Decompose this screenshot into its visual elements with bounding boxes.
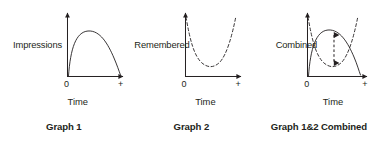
graph-3-xtick-plus: + — [362, 79, 367, 89]
graph-3-ylabel: Combined — [255, 39, 317, 50]
graph-1-xtick-zero: 0 — [64, 79, 69, 89]
chart-panel-graph-1: Impressions 0 + Time Graph 1 — [0, 0, 128, 145]
graph-2-caption: Graph 2 — [128, 121, 256, 133]
graph-3-xlabel: Time — [255, 96, 383, 107]
graph-2-xtick-plus: + — [236, 79, 241, 89]
graph-1-axes — [67, 13, 123, 76]
graph-2-axes — [185, 13, 241, 76]
graph-1-curve-impressions — [68, 31, 120, 76]
graph-2-xtick-zero: 0 — [182, 79, 187, 89]
graph-1-caption: Graph 1 — [0, 121, 128, 133]
graph-3-caption: Graph 1&2 Combined — [255, 121, 383, 133]
graph-1-xtick-plus: + — [118, 79, 123, 89]
graph-2-curve-remembered — [186, 16, 236, 67]
graph-3-xtick-zero: 0 — [304, 79, 309, 89]
chart-panels: Impressions 0 + Time Graph 1 Remembered … — [0, 0, 383, 145]
chart-panel-graph-2: Remembered 0 + Time Graph 2 — [128, 0, 256, 145]
chart-panel-graph-3: Combined 0 + Time Graph 1&2 Combined — [255, 0, 383, 145]
graph-1-ylabel: Impressions — [0, 39, 62, 50]
graph-1-xlabel: Time — [0, 96, 142, 107]
graph-2-ylabel: Remembered — [128, 39, 190, 50]
graph-2-xlabel: Time — [128, 96, 270, 107]
